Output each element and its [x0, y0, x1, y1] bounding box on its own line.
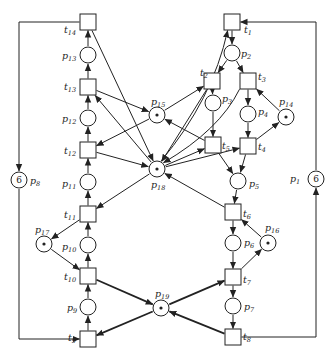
transition-label-t2: t2 [200, 67, 208, 80]
transition-label-t6: t6 [243, 208, 251, 221]
place-circle [230, 173, 246, 189]
transition-t1 [224, 14, 240, 30]
arc-p5-to-t6 [234, 190, 236, 204]
place-p18 [149, 161, 165, 177]
place-p15 [149, 107, 165, 123]
transition-t10 [80, 268, 96, 284]
place-circle [80, 47, 96, 63]
place-p11 [80, 174, 96, 190]
arc-t13-to-p15 [97, 90, 149, 111]
place-p5 [230, 173, 246, 189]
arc-t5-to-p5 [219, 154, 233, 174]
transition-t13 [80, 79, 96, 95]
arc-p18-to-t11 [97, 174, 150, 209]
place-p4 [240, 106, 256, 122]
place-p10 [80, 237, 96, 253]
transition-label-t1: t1 [244, 24, 252, 37]
transition-label-t14: t14 [64, 24, 76, 37]
transition-t8 [225, 329, 241, 345]
place-label-p10: p10 [62, 241, 76, 254]
arc-p2-to-t2 [218, 60, 227, 72]
arc-t11-to-p17 [51, 220, 79, 239]
transition-label-t8: t8 [243, 331, 251, 344]
place-circle [225, 298, 241, 314]
place-label-p1: p1 [290, 173, 300, 186]
transition-label-t12: t12 [64, 145, 76, 158]
transition-label-t4: t4 [258, 141, 266, 154]
arc-t14-to-p18 [92, 31, 153, 161]
place-p3 [205, 95, 221, 111]
place-circle [224, 45, 240, 61]
place-label-p13: p13 [62, 50, 76, 63]
transition-label-t9: t9 [68, 332, 76, 345]
place-label-p5: p5 [249, 178, 259, 191]
place-p1: 6 [308, 171, 324, 187]
labels-layer: p1p2p3p4p5p6p7p8p9p10p11p12p13p14p15p16p… [30, 24, 300, 345]
arc-p18-to-t5 [165, 149, 204, 166]
place-label-p12: p12 [62, 113, 76, 126]
place-label-p16: p16 [265, 222, 279, 235]
place-label-p11: p11 [62, 178, 76, 191]
transition-label-t7: t7 [243, 274, 252, 287]
place-label-p19: p19 [155, 288, 169, 301]
arc-t14-to-p8 [19, 22, 80, 171]
arc-p15-to-t12 [97, 119, 149, 146]
place-label-p18: p18 [151, 179, 165, 192]
arc-t8-to-p19 [169, 311, 224, 333]
petri-net-diagram: 66 p1p2p3p4p5p6p7p8p9p10p11p12p13p14p15p… [0, 0, 331, 353]
transition-label-t13: t13 [64, 81, 76, 94]
transition-t7 [225, 269, 241, 285]
place-p17 [36, 236, 52, 252]
place-circle [80, 237, 96, 253]
arc-t7-to-p16 [242, 249, 262, 268]
place-p9 [80, 299, 96, 315]
place-circle [80, 299, 96, 315]
petri-net-svg: 66 p1p2p3p4p5p6p7p8p9p10p11p12p13p14p15p… [0, 0, 331, 353]
place-p6 [225, 235, 241, 251]
transition-t6 [225, 204, 241, 220]
place-label-p15: p15 [151, 96, 165, 109]
transition-t4 [240, 138, 256, 154]
place-label-p7: p7 [244, 301, 255, 314]
place-circle [240, 106, 256, 122]
place-label-p14: p14 [279, 96, 293, 109]
place-label-p4: p4 [258, 106, 268, 119]
transition-t3 [240, 73, 256, 89]
arc-p8-to-t9 [19, 189, 80, 339]
place-p19 [153, 300, 169, 316]
arc-p19-to-t7 [169, 281, 224, 305]
arc-p18-to-t13 [95, 96, 151, 163]
transition-t5 [205, 137, 221, 153]
arc-p15-to-t2 [165, 86, 204, 110]
place-p13 [80, 47, 96, 63]
token-dot-icon [266, 241, 269, 244]
transition-t14 [80, 14, 96, 30]
arc-t10-to-p19 [97, 280, 153, 305]
place-label-p8: p8 [30, 175, 40, 188]
transition-label-t3: t3 [258, 71, 266, 84]
place-p7 [225, 298, 241, 314]
place-circle [80, 110, 96, 126]
arc-t6-to-p18 [165, 173, 225, 207]
arc-p16-to-t6 [242, 220, 262, 238]
place-p2 [224, 45, 240, 61]
token-dot-icon [159, 306, 162, 309]
transition-label-t5: t5 [222, 140, 230, 153]
place-p16 [260, 235, 276, 251]
place-label-p6: p6 [244, 237, 254, 250]
place-p8: 6 [11, 172, 27, 188]
place-label-p17: p17 [35, 224, 50, 237]
transition-t12 [80, 142, 96, 158]
arc-t12-to-p18 [97, 152, 149, 166]
transition-label-t10: t10 [64, 271, 76, 284]
place-circle [225, 235, 241, 251]
token-dot-icon [155, 167, 158, 170]
arc-p2-to-t3 [236, 61, 243, 73]
transition-t9 [80, 331, 96, 347]
arc-p19-to-t9 [97, 312, 153, 336]
place-label-p2: p2 [241, 48, 251, 61]
place-label-p3: p3 [222, 93, 232, 106]
place-circle [205, 95, 221, 111]
token-count: 6 [313, 174, 319, 184]
place-p12 [80, 110, 96, 126]
